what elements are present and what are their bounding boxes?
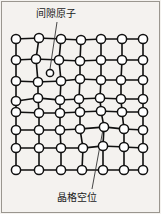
lattice-bond bbox=[37, 42, 39, 55]
lattice-atom bbox=[96, 55, 105, 64]
lattice-bond bbox=[82, 152, 83, 166]
lattice-atom bbox=[11, 34, 20, 43]
lattice-atom bbox=[96, 106, 105, 115]
lattice-bond bbox=[84, 111, 97, 112]
lattice-atom bbox=[116, 75, 125, 84]
lattice-atom bbox=[33, 93, 42, 102]
lattice-bond bbox=[107, 146, 120, 147]
lattice-bond bbox=[83, 98, 96, 99]
lattice-bond bbox=[64, 112, 76, 113]
lattice-atom bbox=[55, 125, 64, 134]
lattice-atom bbox=[138, 165, 147, 174]
lattice-bond bbox=[59, 64, 60, 77]
lattice-bond bbox=[103, 131, 104, 142]
lattice-atom bbox=[117, 34, 126, 43]
lattice-bond bbox=[84, 79, 97, 80]
lattice-atom bbox=[96, 34, 105, 43]
lattice-bond bbox=[63, 60, 76, 61]
lattice-atom bbox=[98, 141, 107, 150]
lattice-atom bbox=[11, 165, 20, 174]
lattice-atom bbox=[55, 108, 64, 117]
lattice-atom bbox=[96, 75, 105, 84]
lattice-atom bbox=[138, 94, 147, 103]
lattice-atom bbox=[117, 55, 126, 64]
lattice-bond bbox=[65, 39, 77, 40]
lattice-bond bbox=[100, 84, 101, 94]
lattice-bond bbox=[85, 39, 97, 40]
interstitial-atom bbox=[46, 69, 53, 76]
lattice-atom bbox=[98, 165, 107, 174]
lattice-bond bbox=[40, 59, 55, 60]
lattice-bond bbox=[20, 59, 32, 60]
lattice-bond bbox=[42, 81, 57, 82]
lattice-bond bbox=[42, 98, 56, 99]
lattice-atom bbox=[138, 75, 147, 84]
leader-lines bbox=[50, 22, 104, 189]
lattice-atom bbox=[138, 125, 147, 134]
lattice-atom bbox=[11, 125, 20, 134]
lattice-atom bbox=[119, 124, 128, 133]
lattice-atom bbox=[34, 33, 43, 42]
lattice-bond bbox=[84, 60, 97, 61]
lattice-atom bbox=[119, 142, 128, 151]
lattice-atom bbox=[116, 94, 125, 103]
lattice-bond bbox=[80, 44, 81, 57]
lattice-atom bbox=[75, 74, 84, 83]
lattice-bond bbox=[20, 38, 35, 39]
lattice-bond bbox=[102, 115, 103, 123]
lattice-atom bbox=[77, 165, 86, 174]
lattice-atom bbox=[74, 94, 83, 103]
lattice-bond bbox=[79, 83, 80, 95]
lattice-bond bbox=[128, 129, 139, 130]
lattice-atoms bbox=[11, 33, 147, 174]
lattice-atom bbox=[34, 143, 43, 152]
lattice-atom bbox=[138, 143, 147, 152]
lattice-atom bbox=[11, 55, 20, 64]
lattice-atom bbox=[56, 165, 65, 174]
lattice-atom bbox=[138, 107, 147, 116]
crystal-lattice-diagram bbox=[0, 0, 161, 214]
lattice-atom bbox=[75, 107, 84, 116]
lattice-atom bbox=[11, 143, 20, 152]
lattice-atom bbox=[34, 108, 43, 117]
lattice-bond bbox=[60, 134, 61, 144]
lattice-bond bbox=[108, 127, 120, 128]
lattice-atom bbox=[56, 34, 65, 43]
lattice-atom bbox=[138, 55, 147, 64]
lattice-bond bbox=[20, 81, 34, 82]
lattice-atom bbox=[119, 165, 128, 174]
lattice-bond bbox=[121, 64, 122, 76]
lattice-atom bbox=[34, 125, 43, 134]
lattice-bond bbox=[81, 133, 83, 144]
figure-canvas: 间隙原子 晶格空位 bbox=[0, 0, 161, 214]
lattice-defects bbox=[46, 69, 53, 76]
lattice-atom bbox=[95, 93, 104, 102]
lattice-atom bbox=[56, 143, 65, 152]
lattice-atom bbox=[76, 35, 85, 44]
lattice-bond bbox=[64, 99, 75, 100]
lattice-bond bbox=[105, 111, 118, 112]
lattice-atom bbox=[138, 34, 147, 43]
lattice-bond bbox=[64, 129, 76, 130]
lattice-atom bbox=[99, 122, 108, 131]
lattice-atom bbox=[11, 107, 20, 116]
lattice-bond bbox=[65, 79, 76, 80]
lattice-bond bbox=[104, 98, 117, 99]
lattice-bond bbox=[87, 146, 99, 147]
lattice-atom bbox=[55, 95, 64, 104]
lattice-atom bbox=[33, 77, 42, 86]
lattice-atom bbox=[34, 165, 43, 174]
lattice-bond bbox=[60, 85, 61, 96]
lattice-atom bbox=[56, 76, 65, 85]
lattice-atom bbox=[75, 124, 84, 133]
lattice-bond bbox=[84, 127, 100, 128]
lattice-bond bbox=[128, 147, 139, 148]
lattice-bond bbox=[20, 112, 35, 113]
lattice-bond bbox=[122, 116, 123, 125]
lattice-atom bbox=[75, 56, 84, 65]
lattice-bond bbox=[59, 43, 60, 56]
lattice-atom bbox=[78, 143, 87, 152]
lattice-atom bbox=[117, 107, 126, 116]
lattice-bond bbox=[20, 99, 34, 101]
lattice-atom bbox=[54, 55, 63, 64]
